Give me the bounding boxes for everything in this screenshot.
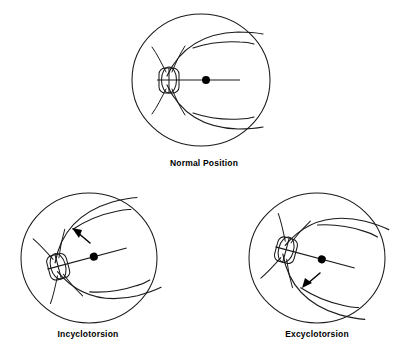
fundus-torsion-figure: Normal Position	[0, 0, 408, 356]
fovea	[89, 252, 99, 262]
arcade-inferior-main	[57, 247, 161, 314]
superior-temporal-arcade	[167, 32, 263, 76]
torsion-arrow-head	[302, 278, 312, 288]
fundus-panel-incyclotorsion: Incyclotorsion	[21, 193, 162, 339]
superior-temporal-arcade	[285, 203, 389, 270]
panel-label-normal: Normal Position	[170, 158, 238, 168]
fundus-panel-normal: Normal Position	[132, 14, 270, 168]
nasal-vessel-inferior-temporal	[261, 254, 281, 282]
optic-disc	[45, 251, 71, 281]
fovea	[317, 254, 327, 264]
arcade-inferior-branch	[193, 113, 254, 119]
retinal-pattern	[152, 32, 263, 129]
torsion-arrow-excyclotorsion	[302, 273, 320, 288]
arcade-superior-branch	[193, 42, 254, 48]
panel-label-incyclotorsion: Incyclotorsion	[58, 329, 119, 339]
arcade-superior-main	[167, 32, 263, 76]
torsion-arrow-incyclotorsion	[72, 228, 90, 243]
torsion-arrow-head	[72, 228, 82, 238]
arcade-superior-main	[285, 203, 389, 270]
inferior-temporal-arcade	[57, 247, 161, 314]
fovea	[202, 76, 210, 84]
optic-disc	[273, 235, 299, 265]
fundus-panel-excyclotorsion: Excyclotorsion	[249, 193, 389, 339]
inferior-temporal-arcade	[167, 85, 263, 129]
nasal-vessel-inferior-nasal	[63, 271, 82, 299]
panel-label-excyclotorsion: Excyclotorsion	[285, 329, 349, 339]
optic-disc	[159, 67, 179, 93]
arcade-inferior-main	[167, 85, 263, 129]
